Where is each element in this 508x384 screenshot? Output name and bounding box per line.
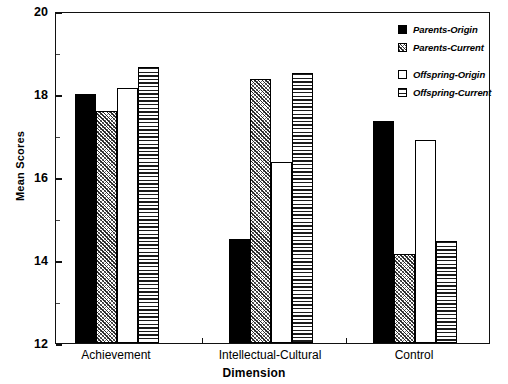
y-axis-tick-label: 16: [14, 171, 48, 185]
bar: [138, 67, 159, 343]
bar: [96, 111, 117, 343]
legend-swatch-icon: [398, 88, 407, 97]
legend-item[interactable]: Parents-Current: [398, 40, 484, 54]
bar: [75, 94, 96, 343]
bar: [373, 121, 394, 343]
legend-swatch-icon: [398, 25, 407, 34]
bar: [271, 162, 292, 343]
legend-item[interactable]: Parents-Origin: [398, 22, 478, 36]
x-axis-category-label: Intellectual-Cultural: [219, 348, 322, 362]
y-axis-tick-label: 12: [14, 337, 48, 351]
legend-item[interactable]: Offspring-Origin: [398, 67, 485, 81]
legend-item[interactable]: Offspring-Current: [398, 85, 491, 99]
x-axis-category-label: Achievement: [81, 348, 150, 362]
y-axis-tick-label: 20: [14, 5, 48, 19]
plot-area: [55, 12, 490, 344]
y-axis-major-tick: [56, 344, 62, 345]
legend-label: Offspring-Current: [413, 87, 491, 98]
legend-swatch-icon: [398, 43, 407, 52]
bar: [292, 73, 313, 343]
legend-label: Parents-Current: [413, 42, 484, 53]
x-axis-category-label: Control: [395, 348, 434, 362]
legend-label: Offspring-Origin: [413, 69, 485, 80]
legend-swatch-icon: [398, 70, 407, 79]
y-axis-tick-label: 18: [14, 88, 48, 102]
bar: [250, 79, 271, 343]
y-axis-tick-label: 14: [14, 254, 48, 268]
bar: [415, 140, 436, 343]
bar: [117, 88, 138, 343]
bars-layer: [56, 13, 489, 343]
bar: [436, 241, 457, 343]
bar: [229, 239, 250, 343]
legend-label: Parents-Origin: [413, 24, 478, 35]
bar-chart-figure: Mean Scores Dimension 1214161820 Achieve…: [0, 0, 508, 384]
bar: [394, 254, 415, 343]
